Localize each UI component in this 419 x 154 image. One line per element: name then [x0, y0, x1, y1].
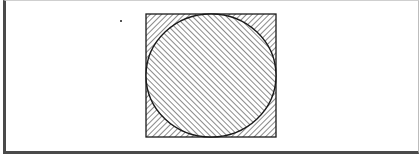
stray-dot [120, 20, 122, 22]
circle-in-square-diagram [0, 0, 419, 154]
figure-canvas: Hatched circle inscribed in a hatched sq… [0, 0, 419, 154]
hatched-circle [146, 14, 276, 137]
